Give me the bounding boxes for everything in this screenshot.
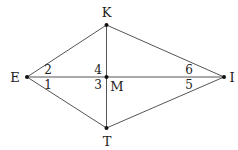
angle-label-6: 6 [185, 63, 193, 77]
label-e: E [10, 70, 20, 85]
angle-label-1: 1 [44, 78, 52, 92]
point-k [105, 23, 109, 27]
label-i: I [229, 70, 234, 85]
point-m [105, 75, 109, 79]
segment-ki [107, 25, 225, 77]
label-m: M [110, 79, 123, 94]
angle-label-2: 2 [44, 63, 52, 77]
angle-label-5: 5 [185, 78, 193, 92]
kite-diagram: K E M I T 2 1 4 3 6 5 [0, 0, 238, 150]
segment-it [107, 77, 225, 128]
label-t: T [103, 134, 112, 149]
angle-label-4: 4 [94, 63, 102, 77]
angle-label-3: 3 [94, 78, 102, 92]
point-e [25, 75, 29, 79]
point-i [222, 75, 226, 79]
point-t [105, 126, 109, 130]
label-k: K [102, 5, 112, 20]
